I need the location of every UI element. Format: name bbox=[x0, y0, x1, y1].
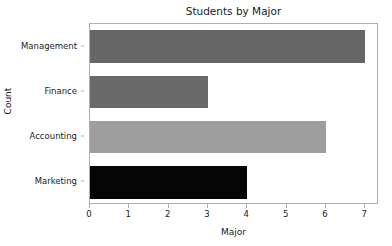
y-tick-mark bbox=[81, 45, 85, 46]
x-axis: 01234567 bbox=[89, 204, 378, 226]
x-tick-label-2: 2 bbox=[165, 209, 170, 219]
y-tick-mark bbox=[81, 90, 85, 91]
x-tick-mark bbox=[364, 204, 365, 208]
chart-title: Students by Major bbox=[89, 5, 378, 17]
plot-area bbox=[89, 23, 378, 204]
y-tick-label-marketing: Marketing bbox=[35, 176, 77, 186]
x-tick-mark bbox=[89, 204, 90, 208]
y-tick-label-management: Management bbox=[21, 41, 77, 51]
x-tick-label-1: 1 bbox=[126, 209, 131, 219]
x-tick-mark bbox=[168, 204, 169, 208]
bar-accounting bbox=[90, 121, 326, 154]
y-tick-mark bbox=[81, 136, 85, 137]
y-tick-label-accounting: Accounting bbox=[30, 131, 77, 141]
bar-finance bbox=[90, 76, 208, 109]
x-tick-label-3: 3 bbox=[204, 209, 209, 219]
x-tick-mark bbox=[246, 204, 247, 208]
x-tick-label-0: 0 bbox=[86, 209, 91, 219]
bar-management bbox=[90, 30, 365, 63]
x-axis-label: Major bbox=[89, 227, 378, 237]
x-tick-label-6: 6 bbox=[322, 209, 327, 219]
x-tick-mark bbox=[286, 204, 287, 208]
bar-series bbox=[90, 24, 377, 203]
x-tick-mark bbox=[207, 204, 208, 208]
y-axis-label: Count bbox=[3, 71, 13, 131]
bar-marketing bbox=[90, 166, 247, 199]
chart-figure: Students by Major ManagementFinanceAccou… bbox=[0, 0, 392, 246]
x-tick-mark bbox=[128, 204, 129, 208]
y-tick-label-finance: Finance bbox=[44, 86, 77, 96]
x-tick-label-7: 7 bbox=[362, 209, 367, 219]
y-tick-mark bbox=[81, 181, 85, 182]
x-tick-label-4: 4 bbox=[244, 209, 249, 219]
x-tick-mark bbox=[325, 204, 326, 208]
x-tick-label-5: 5 bbox=[283, 209, 288, 219]
